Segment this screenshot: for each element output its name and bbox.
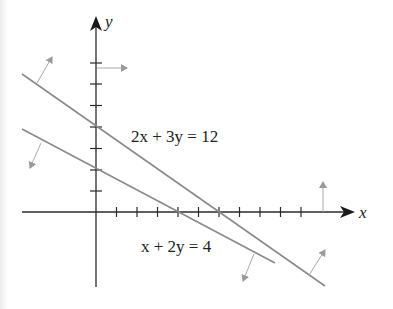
direction-arrow-icon — [309, 250, 325, 275]
direction-arrow-icon — [37, 57, 52, 83]
y-axis — [90, 16, 102, 287]
y-axis-label: y — [103, 12, 113, 31]
x-axis — [22, 206, 355, 218]
x-axis-label: x — [358, 203, 367, 222]
equation-label-2: x + 2y = 4 — [141, 237, 212, 256]
equation-label-1: 2x + 3y = 12 — [131, 127, 218, 146]
direction-arrow-icon — [243, 254, 254, 281]
linear-constraints-diagram: y x 2x + 3y = 12 x + 2y = 4 — [0, 0, 393, 309]
direction-arrow-icon — [30, 143, 41, 168]
